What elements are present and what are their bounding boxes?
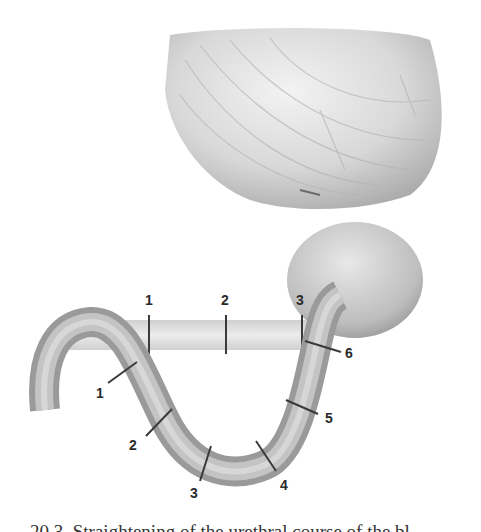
curved-label-2: 2 — [129, 437, 137, 453]
straight-label-3: 3 — [296, 292, 304, 308]
curved-label-1: 1 — [96, 385, 104, 401]
bladder — [165, 28, 442, 209]
curved-label-3: 3 — [190, 485, 198, 501]
curved-label-6: 6 — [345, 345, 353, 361]
straight-label-2: 2 — [221, 292, 229, 308]
anatomy-figure: 1 2 3 1 2 3 4 5 6 — [0, 0, 481, 532]
straight-label-1: 1 — [145, 292, 153, 308]
curved-label-5: 5 — [325, 410, 333, 426]
figure-caption: 20.3. Straightening of the urethral cour… — [30, 519, 481, 532]
curved-label-4: 4 — [280, 477, 288, 493]
